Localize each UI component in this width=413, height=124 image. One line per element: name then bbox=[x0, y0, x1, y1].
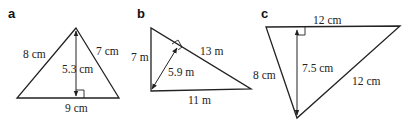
figure-a: a 8 cm 7 cm 5.3 cm 9 cm bbox=[8, 6, 119, 114]
triangle-b bbox=[151, 28, 251, 91]
figure-letter-a: a bbox=[8, 6, 16, 21]
side-label-b-base: 11 m bbox=[188, 94, 211, 106]
side-label-c-top: 12 cm bbox=[313, 14, 341, 26]
height-label-c: 7.5 cm bbox=[302, 62, 333, 74]
triangles-diagram: a 8 cm 7 cm 5.3 cm 9 cm b 7 m 13 m 5.9 m… bbox=[0, 0, 413, 124]
side-label-b-hypotenuse: 13 m bbox=[200, 45, 223, 57]
figure-c: c 12 cm 8 cm 7.5 cm 12 cm bbox=[253, 6, 400, 118]
right-angle-mark-a bbox=[76, 90, 84, 98]
side-label-a-right: 7 cm bbox=[96, 45, 119, 57]
side-label-c-left: 8 cm bbox=[253, 69, 276, 81]
figure-letter-b: b bbox=[137, 6, 145, 21]
figure-b: b 7 m 13 m 5.9 m 11 m bbox=[131, 6, 251, 106]
side-label-b-left: 7 m bbox=[131, 51, 149, 63]
side-label-c-right: 12 cm bbox=[352, 75, 380, 87]
right-angle-mark-c bbox=[297, 27, 305, 35]
side-label-a-left: 8 cm bbox=[23, 48, 46, 60]
side-label-a-base: 9 cm bbox=[65, 102, 88, 114]
figure-letter-c: c bbox=[261, 6, 268, 21]
height-label-a: 5.3 cm bbox=[62, 63, 93, 75]
height-label-b: 5.9 m bbox=[168, 66, 194, 78]
